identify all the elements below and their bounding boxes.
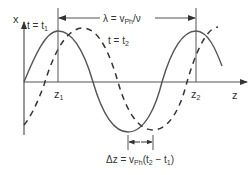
curve-label-t2: t = t2 (108, 35, 129, 47)
z1-label: z1 (54, 88, 64, 101)
axes (24, 22, 247, 135)
curve-label-t1: t = t1 (27, 20, 48, 32)
delta-z-marker (128, 135, 153, 150)
y-axis-label: x (13, 13, 19, 25)
z2-label: z2 (191, 88, 201, 101)
wave-diagram: x z λ = vPh/ν t = t1 t = t2 z1 z2 Δz = v… (0, 0, 252, 175)
delta-z-label: Δz = vPh(t2 − t1) (106, 154, 174, 166)
wavelength-label: λ = vPh/ν (103, 13, 141, 25)
z-axis-label: z (232, 89, 238, 101)
